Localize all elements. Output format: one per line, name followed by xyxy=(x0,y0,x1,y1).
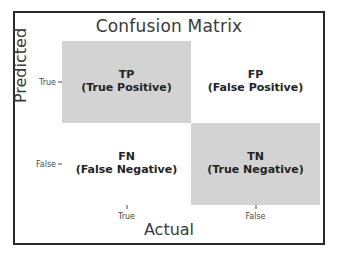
y-tick-label-true: True xyxy=(39,78,56,87)
y-tick-label-false: False xyxy=(36,160,56,169)
x-axis-label: Actual xyxy=(13,220,325,239)
matrix-cell-true-positive: TP (True Positive) xyxy=(62,41,191,123)
cell-full-fp: (False Positive) xyxy=(208,82,304,95)
matrix-cell-true-negative: TN (True Negative) xyxy=(191,123,320,205)
confusion-matrix-figure: Confusion Matrix Predicted Actual TP (Tr… xyxy=(0,0,340,256)
chart-title: Confusion Matrix xyxy=(13,16,325,36)
x-tick-label-true: True xyxy=(118,212,135,221)
cell-full-tp: (True Positive) xyxy=(81,82,172,95)
matrix-plot-area: TP (True Positive) FP (False Positive) F… xyxy=(62,41,320,205)
matrix-cell-false-positive: FP (False Positive) xyxy=(191,41,320,123)
x-tick-mark-false xyxy=(255,205,256,209)
x-tick-label-false: False xyxy=(245,212,265,221)
matrix-cell-false-negative: FN (False Negative) xyxy=(62,123,191,205)
x-tick-mark-true xyxy=(126,205,127,209)
cell-full-tn: (True Negative) xyxy=(207,164,304,177)
cell-full-fn: (False Negative) xyxy=(76,164,178,177)
y-tick-mark-true xyxy=(58,82,62,83)
y-axis-label: Predicted xyxy=(11,0,30,146)
y-tick-mark-false xyxy=(58,164,62,165)
